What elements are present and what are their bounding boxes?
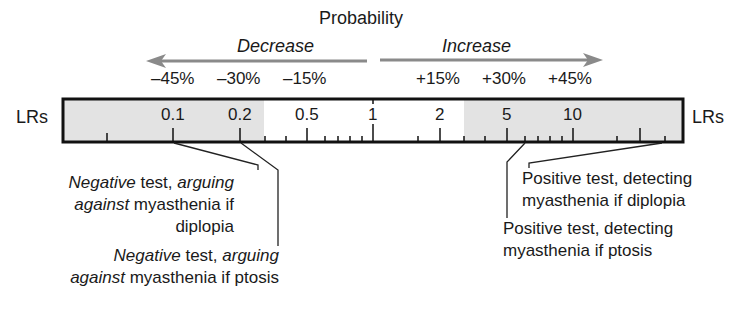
neg-diplopia-italic-negative: Negative <box>69 173 136 192</box>
percent-label-minus45: –45% <box>151 69 194 89</box>
leader-pos-diplopia <box>529 143 662 168</box>
neg-ptosis-italic-against: against <box>70 268 125 287</box>
leader-neg-ptosis <box>241 143 278 246</box>
neg-ptosis-italic-negative: Negative <box>114 246 181 265</box>
pos-ptosis-line1: Positive test, detecting <box>503 218 673 240</box>
diagram-title: Probability <box>319 8 403 29</box>
neg-diplopia-plain2: myasthenia if <box>129 195 234 214</box>
tick-label-10: 10 <box>563 105 582 125</box>
percent-label-minus15: –15% <box>283 69 326 89</box>
percent-label-plus30: +30% <box>482 69 526 89</box>
neg-diplopia-line3: diplopia <box>48 216 234 238</box>
pos-diplopia-line1: Positive test, detecting <box>522 168 692 190</box>
tick-label-1: 1 <box>368 105 377 125</box>
tick-label-0-2: 0.2 <box>228 105 252 125</box>
neg-diplopia-italic-arguing: arguing <box>177 173 234 192</box>
leader-neg-diplopia <box>174 143 258 170</box>
percent-label-plus15: +15% <box>416 69 460 89</box>
increase-label: Increase <box>442 36 511 57</box>
tick-label-0-5: 0.5 <box>295 105 319 125</box>
neg-ptosis-italic-arguing: arguing <box>222 246 279 265</box>
decrease-label: Decrease <box>237 36 314 57</box>
neg-ptosis-plain1: test, <box>181 246 223 265</box>
neg-diplopia-italic-against: against <box>74 195 129 214</box>
tick-label-0-1: 0.1 <box>161 105 185 125</box>
tick-label-2: 2 <box>435 105 444 125</box>
annotation-negative-diplopia: Negative test, arguing against myastheni… <box>48 172 234 238</box>
pos-diplopia-line2: myasthenia if diplopia <box>522 190 692 212</box>
lr-label-left: LRs <box>16 107 48 128</box>
percent-label-minus30: –30% <box>217 69 260 89</box>
tick-label-5: 5 <box>502 105 511 125</box>
annotation-positive-ptosis: Positive test, detecting myasthenia if p… <box>503 218 673 262</box>
percent-label-plus45: +45% <box>548 69 592 89</box>
lr-label-right: LRs <box>692 107 724 128</box>
neg-diplopia-plain1: test, <box>136 173 178 192</box>
neg-ptosis-plain2: myasthenia if ptosis <box>125 268 279 287</box>
annotation-negative-ptosis: Negative test, arguing against myastheni… <box>10 245 279 289</box>
pos-ptosis-line2: myasthenia if ptosis <box>503 240 673 262</box>
annotation-positive-diplopia: Positive test, detecting myasthenia if d… <box>522 168 692 212</box>
